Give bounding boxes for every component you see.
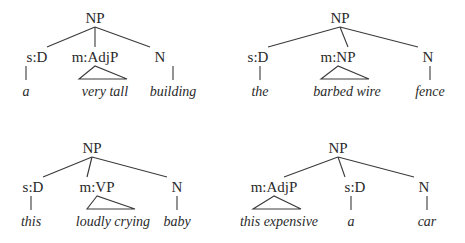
root-node-label: NP bbox=[82, 140, 101, 156]
leaf-word: barbed wire bbox=[313, 84, 381, 99]
triangle-abbreviation bbox=[321, 66, 369, 79]
leaf-word: a bbox=[348, 214, 355, 229]
triangle-abbreviation bbox=[87, 196, 135, 209]
child-node-label: m:VP bbox=[79, 179, 114, 195]
tree-3: NPs:Dthism:VPloudly cryingNbaby bbox=[21, 140, 192, 229]
child-node-label: m:NP bbox=[320, 49, 355, 65]
branch-line bbox=[92, 157, 167, 177]
root-node-label: NP bbox=[85, 10, 104, 26]
branch-line bbox=[340, 27, 348, 47]
branch-line bbox=[95, 27, 150, 47]
branch-line bbox=[268, 27, 340, 47]
child-node-label: N bbox=[155, 49, 166, 65]
leaf-word: car bbox=[418, 214, 437, 229]
branch-line bbox=[47, 27, 95, 47]
leaf-word: loudly crying bbox=[76, 214, 150, 229]
leaf-word: fence bbox=[415, 84, 445, 99]
triangle-abbreviation bbox=[79, 66, 127, 79]
child-node-label: N bbox=[419, 179, 430, 195]
child-node-label: m:AdjP bbox=[251, 179, 298, 195]
leaf-word: a bbox=[23, 84, 30, 99]
tree-2: NPs:Dthem:NPbarbed wireNfence bbox=[248, 10, 445, 99]
child-node-label: s:D bbox=[345, 179, 366, 195]
leaf-word: the bbox=[251, 84, 268, 99]
branch-line bbox=[43, 157, 92, 177]
leaf-word: very tall bbox=[82, 84, 128, 99]
leaf-word: building bbox=[150, 84, 197, 99]
syntax-tree-diagram: NPs:Dam:AdjPvery tallNbuildingNPs:Dthem:… bbox=[0, 0, 465, 243]
child-node-label: N bbox=[423, 49, 434, 65]
leaf-word: this expensive bbox=[240, 214, 318, 229]
child-node-label: N bbox=[172, 179, 183, 195]
child-node-label: s:D bbox=[23, 179, 44, 195]
child-node-label: m:AdjP bbox=[72, 49, 119, 65]
root-node-label: NP bbox=[330, 10, 349, 26]
branch-line bbox=[338, 157, 414, 177]
branch-line bbox=[338, 157, 345, 177]
branch-line bbox=[340, 27, 418, 47]
branch-line bbox=[87, 157, 92, 177]
leaf-word: this bbox=[21, 214, 42, 229]
leaf-word: baby bbox=[163, 214, 191, 229]
child-node-label: s:D bbox=[27, 49, 48, 65]
tree-1: NPs:Dam:AdjPvery tallNbuilding bbox=[23, 10, 197, 99]
child-node-label: s:D bbox=[248, 49, 269, 65]
tree-4: NPm:AdjPthis expensives:DaNcar bbox=[240, 140, 437, 229]
triangle-abbreviation bbox=[253, 196, 301, 209]
root-node-label: NP bbox=[328, 140, 347, 156]
branch-line bbox=[284, 157, 338, 177]
